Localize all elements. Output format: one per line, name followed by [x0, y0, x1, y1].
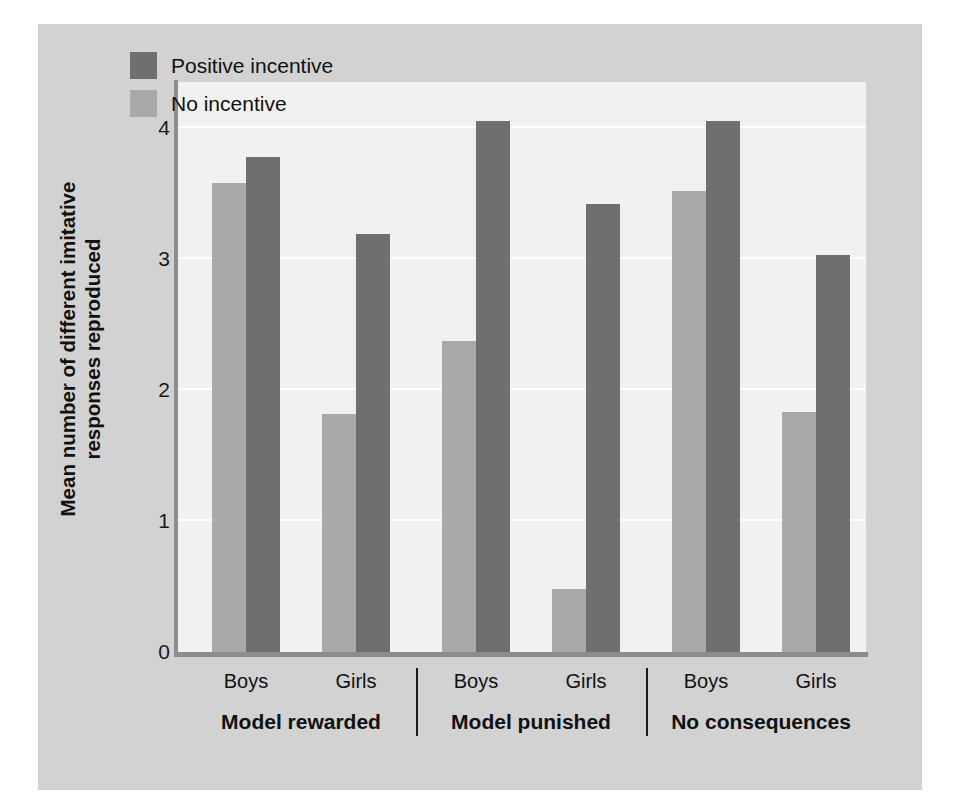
bar-positive-incentive — [586, 204, 620, 652]
group-separator — [646, 668, 648, 736]
bar-no-incentive — [212, 183, 246, 652]
y-tick-label: 3 — [144, 247, 170, 271]
legend-swatch-icon-positive-incentive — [130, 52, 157, 79]
x-sublabel-boys: Boys — [224, 670, 268, 693]
y-axis-label: Mean number of different imitative respo… — [55, 139, 105, 559]
bar-no-incentive — [782, 412, 816, 652]
legend-item-positive-incentive: Positive incentive — [130, 52, 333, 79]
x-axis-line — [174, 652, 868, 657]
legend-item-no-incentive: No incentive — [130, 90, 333, 117]
bar-positive-incentive — [816, 255, 850, 652]
bar-positive-incentive — [246, 157, 280, 652]
x-sublabel-boys: Boys — [454, 670, 498, 693]
chart-legend: Positive incentive No incentive — [130, 52, 333, 128]
bar-positive-incentive — [476, 121, 510, 652]
bar-positive-incentive — [706, 121, 740, 652]
y-tick-label: 2 — [144, 378, 170, 402]
x-group-label: Model rewarded — [221, 710, 381, 734]
x-sublabel-girls: Girls — [335, 670, 376, 693]
legend-label-positive-incentive: Positive incentive — [171, 54, 333, 78]
group-separator — [416, 668, 418, 736]
x-group-label: No consequences — [671, 710, 851, 734]
bar-no-incentive — [672, 191, 706, 652]
x-sublabel-girls: Girls — [795, 670, 836, 693]
legend-label-no-incentive: No incentive — [171, 92, 287, 116]
x-sublabel-boys: Boys — [684, 670, 728, 693]
chart-figure: 01234 Mean number of different imitative… — [38, 24, 922, 790]
bar-no-incentive — [552, 589, 586, 652]
bar-no-incentive — [442, 341, 476, 652]
plot-area — [176, 82, 866, 652]
y-axis-line — [174, 80, 178, 656]
x-group-label: Model punished — [451, 710, 611, 734]
bar-positive-incentive — [356, 234, 390, 652]
y-tick-label: 1 — [144, 509, 170, 533]
legend-swatch-icon-no-incentive — [130, 90, 157, 117]
x-sublabel-girls: Girls — [565, 670, 606, 693]
y-axis-ticks: 01234 — [130, 24, 170, 790]
y-tick-label: 0 — [144, 640, 170, 664]
bar-no-incentive — [322, 414, 356, 652]
